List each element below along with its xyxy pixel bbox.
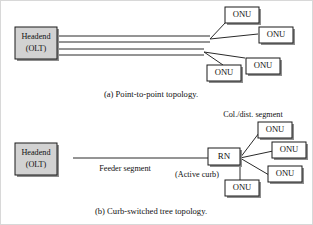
headend-label-line2: (OLT) [26,160,47,169]
panel-b-onu-1[interactable]: ONU [258,122,294,140]
rn-label: RN [218,151,231,161]
onu-label: ONU [280,144,299,154]
branch-line-to-onu-4 [204,52,245,58]
onu-label: ONU [254,60,273,70]
panel-b-caption: (b) Curb-switched tree topology. [95,206,207,216]
panel-a-onu-4[interactable]: ONU [246,58,282,76]
rn-sublabel: (Active curb) [175,170,219,179]
figure-container: Headend (OLT) ONU ONU ONU ONU (a) P [0,0,313,225]
onu-label: ONU [266,124,285,134]
onu-label: ONU [215,67,234,77]
headend-label-line2: (OLT) [26,44,47,53]
onu-label: ONU [233,182,252,192]
headend-label-line1: Headend [21,148,50,157]
dist-line-to-onu-3 [240,158,269,175]
branch-line-to-onu-2 [210,34,258,39]
panel-a-onu-2[interactable]: ONU [259,27,295,45]
panel-b-onu-3[interactable]: ONU [268,166,304,184]
panel-a-onu-1[interactable]: ONU [225,7,261,25]
onu-label: ONU [233,9,252,19]
panel-b-onu-2[interactable]: ONU [272,142,308,160]
panel-a-caption: (a) Point-to-point topology. [104,89,198,99]
onu-label: ONU [267,29,286,39]
headend-label-line1: Headend [21,32,50,41]
panel-b-rn-node[interactable]: RN [208,148,242,167]
topology-diagram: Headend (OLT) ONU ONU ONU ONU (a) P [1,1,313,225]
panel-a-trunk-lines [56,36,210,55]
panel-a-onu-3[interactable]: ONU [207,65,243,83]
onu-label: ONU [276,168,295,178]
panel-b-onu-4[interactable]: ONU [225,180,261,198]
distribution-segment-label: Col./dist. segment [223,110,283,119]
panel-a-headend-node[interactable]: Headend (OLT) [15,27,59,61]
feeder-segment-label: Feeder segment [99,164,151,173]
panel-b-headend-node[interactable]: Headend (OLT) [15,143,59,177]
branch-line-to-onu-1 [210,22,226,39]
